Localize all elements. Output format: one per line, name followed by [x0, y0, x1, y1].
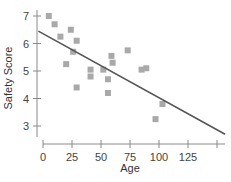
data-point — [105, 76, 111, 82]
data-point — [57, 34, 63, 40]
data-point — [52, 21, 58, 27]
data-point — [63, 61, 69, 67]
x-tick-label: 50 — [95, 151, 107, 163]
x-tick-label: 125 — [179, 151, 197, 163]
y-axis-title: Safety Score — [2, 47, 14, 110]
x-axis-title: Age — [120, 162, 140, 174]
y-tick-label: 3 — [23, 120, 29, 132]
data-point — [74, 85, 80, 91]
data-point — [74, 38, 80, 44]
x-tick-label: 0 — [40, 151, 46, 163]
data-point — [110, 60, 116, 66]
y-axis: 34567 — [23, 10, 41, 137]
data-point — [88, 74, 94, 80]
data-point — [88, 67, 94, 73]
data-point — [68, 27, 74, 33]
x-tick-label: 25 — [66, 151, 78, 163]
y-tick-label: 5 — [23, 65, 29, 77]
y-tick-label: 6 — [23, 38, 29, 50]
data-point — [153, 116, 159, 122]
x-axis: 0255075100125 — [40, 140, 225, 163]
data-point — [105, 90, 111, 96]
data-point — [46, 13, 52, 19]
scatter-chart: 34567 0255075100125 Safety Score Age — [0, 0, 231, 182]
data-point — [108, 53, 114, 59]
regression-line — [38, 31, 225, 134]
data-point — [143, 65, 149, 71]
x-tick-label: 100 — [150, 151, 168, 163]
y-tick-label: 7 — [23, 10, 29, 22]
y-tick-label: 4 — [23, 93, 29, 105]
data-point — [159, 101, 165, 107]
data-point — [125, 47, 131, 53]
